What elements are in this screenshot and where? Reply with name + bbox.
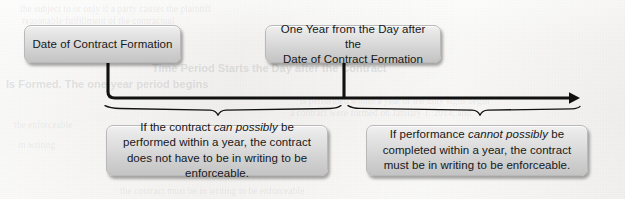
node-one-year-line2: Date of Contract Formation (283, 53, 423, 65)
diagram-canvas: the subject to or only if a party causes… (0, 0, 625, 199)
node-right-outcome-text: If performance cannot possibly be comple… (367, 127, 587, 174)
node-start-label: Date of Contract Formation (25, 38, 180, 50)
node-one-year-from-formation[interactable]: One Year from the Day after the Date of … (265, 25, 441, 63)
left-segment-brace (105, 106, 341, 116)
node-left-outcome[interactable]: If the contract can possibly be performe… (106, 125, 328, 176)
node-left-outcome-text: If the contract can possibly be performe… (107, 120, 327, 182)
timeline-arrowhead-icon (569, 92, 580, 104)
node-one-year-line1: One Year from the Day after the (281, 23, 426, 50)
right-segment-brace (348, 106, 580, 116)
node-date-of-contract-formation[interactable]: Date of Contract Formation (24, 25, 181, 63)
node-right-outcome[interactable]: If performance cannot possibly be comple… (366, 125, 588, 176)
timeline-arrow-line (108, 63, 572, 98)
node-one-year-label: One Year from the Day after the Date of … (266, 22, 440, 67)
